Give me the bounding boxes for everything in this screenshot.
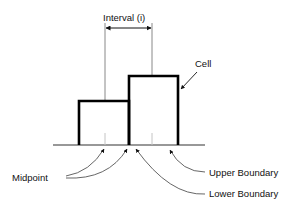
histogram-figure: Interval (i) Cell Midpoint Upper Boundar… xyxy=(0,0,301,211)
upper-boundary-label: Upper Boundary xyxy=(209,167,278,178)
upper-boundary-leader xyxy=(170,150,205,172)
interval-label: Interval (i) xyxy=(103,12,145,23)
cell-label: Cell xyxy=(195,58,211,69)
lower-boundary-leader xyxy=(136,149,205,194)
midpoint-label: Midpoint xyxy=(12,172,48,183)
lower-boundary-label: Lower Boundary xyxy=(209,188,278,199)
histogram-bar-2 xyxy=(129,76,178,145)
histogram-bar-1 xyxy=(79,101,129,145)
cell-leader-arrow xyxy=(181,72,197,89)
midpoint-leader-bar-1 xyxy=(66,149,104,176)
histogram-terminology-diagram: Interval (i) Cell Midpoint Upper Boundar… xyxy=(0,0,301,211)
